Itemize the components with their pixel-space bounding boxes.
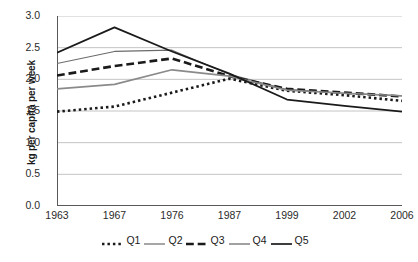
legend-swatch-q1 [102,235,123,245]
legend-label: Q3 [210,234,224,246]
legend-label: Q5 [295,234,309,246]
series-line-q5 [57,27,402,111]
y-tick-label: 1.5 [12,104,40,116]
legend-swatch-q2 [144,235,165,245]
x-tick-label: 2006 [380,209,418,221]
x-tick-label: 1999 [265,209,309,221]
x-axis-tick-labels: 1963196719761987199920022006 [57,209,402,225]
y-tick-label: 2.0 [12,72,40,84]
legend-label: Q2 [168,234,182,246]
y-tick-label: 1.0 [12,136,40,148]
legend-item-q1[interactable]: Q1 [102,234,140,246]
x-tick-label: 1976 [150,209,194,221]
x-tick-label: 1987 [208,209,252,221]
legend-swatch-q4 [229,235,250,245]
legend-swatch-q3 [186,235,207,245]
plot-svg [57,16,402,206]
legend-item-q4[interactable]: Q4 [229,234,267,246]
legend-item-q3[interactable]: Q3 [186,234,224,246]
y-tick-label: 0.5 [12,167,40,179]
legend-item-q2[interactable]: Q2 [144,234,182,246]
plot-area [57,16,402,206]
y-tick-label: 2.5 [12,41,40,53]
y-tick-label: 3.0 [12,9,40,21]
chart-legend: Q1Q2Q3Q4Q5 [0,231,411,249]
legend-swatch-q5 [271,235,292,245]
legend-item-q5[interactable]: Q5 [271,234,309,246]
x-tick-label: 1963 [35,209,79,221]
legend-label: Q4 [253,234,267,246]
x-tick-label: 2002 [323,209,367,221]
series-line-q3 [57,58,402,96]
x-tick-label: 1967 [93,209,137,221]
legend-label: Q1 [126,234,140,246]
